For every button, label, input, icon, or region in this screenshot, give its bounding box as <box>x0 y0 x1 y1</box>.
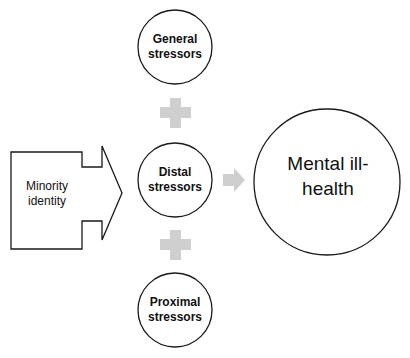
mental-ill-health-text: Mental ill-health <box>276 152 380 201</box>
general-stressors-text: General stressors <box>143 32 207 62</box>
proximal-stressors-label: Proximal stressors <box>141 288 209 332</box>
minority-identity-label: Minority identity <box>14 170 80 218</box>
plus-icon <box>160 230 191 260</box>
arrow-right-icon <box>223 168 245 192</box>
minority-identity-text: Minority identity <box>14 179 80 209</box>
distal-stressors-text: Distal stressors <box>143 165 207 195</box>
proximal-stressors-text: Proximal stressors <box>141 295 209 325</box>
mental-ill-health-label: Mental ill-health <box>276 152 380 202</box>
distal-stressors-label: Distal stressors <box>143 158 207 202</box>
plus-icon <box>160 98 191 128</box>
general-stressors-label: General stressors <box>143 25 207 69</box>
